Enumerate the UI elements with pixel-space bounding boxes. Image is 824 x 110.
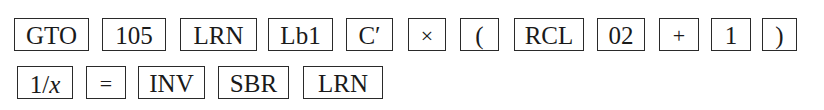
key-label-variable: x <box>49 70 60 97</box>
key-105[interactable]: 105 <box>102 18 166 51</box>
key-label: LRN <box>194 21 244 48</box>
key-inv[interactable]: INV <box>138 66 205 99</box>
key-label: 02 <box>609 21 634 48</box>
key-label: 1 <box>725 21 738 48</box>
key-lrn-2[interactable]: LRN <box>303 66 383 99</box>
key-label: SBR <box>230 69 277 96</box>
key-label: LRN <box>318 69 368 96</box>
key-label-number: 1/ <box>30 70 49 97</box>
key-plus[interactable]: + <box>659 18 699 51</box>
key-lrn[interactable]: LRN <box>180 18 257 51</box>
key-multiply[interactable]: × <box>408 18 446 51</box>
key-label: 1/x <box>30 68 61 97</box>
key-reciprocal[interactable]: 1/x <box>17 66 73 99</box>
key-sbr[interactable]: SBR <box>218 66 289 99</box>
key-02[interactable]: 02 <box>597 18 645 51</box>
key-label: RCL <box>525 21 574 48</box>
key-gto[interactable]: GTO <box>14 18 89 51</box>
key-label: Lb1 <box>280 21 320 48</box>
key-c-prime[interactable]: C′ <box>346 18 393 51</box>
key-equals[interactable]: = <box>86 66 126 99</box>
key-label: C′ <box>358 21 380 48</box>
key-label: ) <box>775 21 783 48</box>
key-open-paren[interactable]: ( <box>460 18 499 51</box>
key-label: 105 <box>115 21 153 48</box>
key-label: GTO <box>26 21 77 48</box>
plus-icon: + <box>673 23 685 47</box>
key-1[interactable]: 1 <box>711 18 751 51</box>
key-lb1[interactable]: Lb1 <box>268 18 333 51</box>
equals-icon: = <box>100 71 112 95</box>
multiply-icon: × <box>421 23 433 47</box>
key-rcl[interactable]: RCL <box>514 18 584 51</box>
key-label: ( <box>475 21 483 48</box>
key-label: INV <box>149 69 193 96</box>
key-close-paren[interactable]: ) <box>762 18 797 51</box>
